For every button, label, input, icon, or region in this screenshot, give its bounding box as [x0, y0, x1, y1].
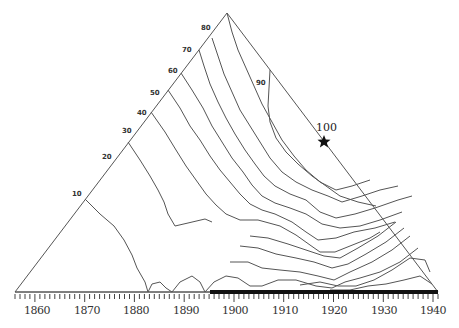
year-ticks	[15, 294, 438, 302]
inner-label-90: 90	[256, 79, 266, 87]
year-label-1910: 1910	[272, 304, 298, 317]
year-label-1940: 1940	[420, 304, 446, 317]
year-label-1930: 1930	[371, 304, 397, 317]
edge-label-70: 70	[182, 46, 192, 54]
year-label-1920: 1920	[321, 304, 347, 317]
star-label: 100	[316, 121, 337, 134]
base-contours	[148, 222, 432, 292]
contour-10	[85, 199, 148, 292]
year-label-1890: 1890	[173, 304, 199, 317]
edge-label-10: 10	[72, 190, 82, 198]
edge-label-60: 60	[168, 67, 178, 75]
year-axis: 1860 1870 1880 1890 1900 1910 1920 1930 …	[15, 290, 446, 317]
edge-label-50: 50	[150, 89, 160, 97]
contour-40	[168, 90, 395, 240]
contour-30	[151, 112, 380, 252]
edge-labels: 10 20 30 40 50 60 70 80 90	[72, 24, 266, 198]
highlight-bar	[210, 290, 438, 294]
edge-label-80: 80	[201, 24, 211, 32]
year-label-1860: 1860	[24, 304, 50, 317]
year-label-1900: 1900	[222, 304, 248, 317]
year-label-1880: 1880	[123, 304, 149, 317]
star-icon	[318, 135, 331, 147]
edge-label-20: 20	[102, 153, 112, 161]
contour-lines	[85, 13, 412, 292]
contour-60	[199, 50, 412, 218]
triangle-outline	[15, 13, 438, 292]
contour-70	[212, 38, 398, 202]
ternary-contour-diagram: 10 20 30 40 50 60 70 80 90 100 1860 1870…	[0, 0, 459, 328]
edge-label-30: 30	[122, 127, 132, 135]
year-label-1870: 1870	[74, 304, 100, 317]
edge-label-40: 40	[137, 109, 147, 117]
contour-80	[227, 13, 370, 190]
